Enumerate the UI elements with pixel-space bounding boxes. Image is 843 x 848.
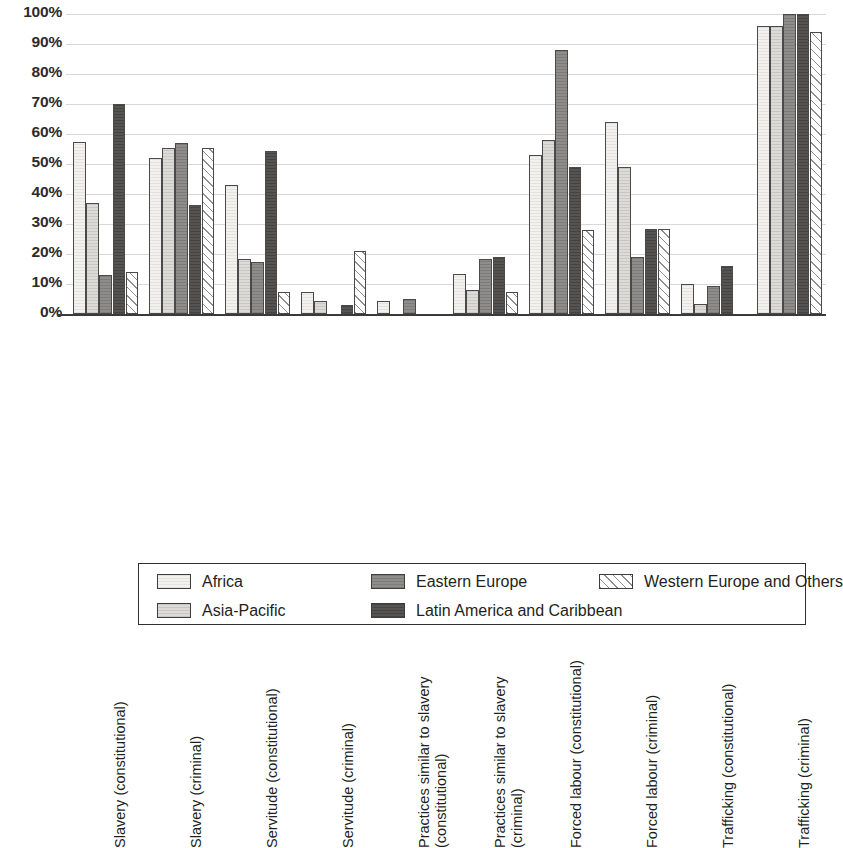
legend-item[interactable]: Western Europe and Others <box>599 566 843 597</box>
bar <box>86 203 98 314</box>
y-axis-tick-label: 70% <box>4 93 62 111</box>
y-axis-tick-label: 60% <box>4 123 62 141</box>
bar-group-bars <box>377 14 442 314</box>
y-axis-tick-label: 40% <box>4 183 62 201</box>
bar-group-bars <box>149 14 214 314</box>
y-axis-tick-label: 80% <box>4 63 62 81</box>
bar <box>658 229 670 315</box>
bar <box>278 292 290 315</box>
bar-group <box>529 14 594 314</box>
legend-swatch-icon <box>371 574 405 589</box>
bar-group-bars <box>73 14 138 314</box>
bar <box>694 304 706 315</box>
bar <box>175 143 187 314</box>
y-axis-tick-label: 20% <box>4 243 62 261</box>
bar <box>783 14 795 314</box>
chart-legend: AfricaAsia-PacificEastern EuropeLatin Am… <box>138 563 806 625</box>
bar <box>453 274 465 315</box>
bar-group <box>301 14 366 314</box>
bar-group <box>757 14 822 314</box>
bar <box>681 284 693 314</box>
y-axis-tick-label: 10% <box>4 273 62 291</box>
bar-group <box>377 14 442 314</box>
bar-group-bars <box>529 14 594 314</box>
bar-group <box>605 14 670 314</box>
bar-group-bars <box>681 14 746 314</box>
x-axis-baseline <box>57 314 826 316</box>
x-axis-category-label-text: Slavery (constitutional) <box>112 638 129 848</box>
bar <box>99 275 111 314</box>
bar <box>354 251 366 314</box>
bar-group-bars <box>605 14 670 314</box>
bar <box>113 104 125 314</box>
bar <box>377 301 390 315</box>
x-axis-category-label-text: Trafficking (constitutional) <box>720 638 737 848</box>
bar <box>238 259 250 315</box>
legend-swatch-icon <box>599 574 633 589</box>
bar <box>707 286 719 315</box>
bar <box>506 292 518 315</box>
bar <box>555 50 567 314</box>
bar <box>770 26 782 314</box>
bar <box>73 142 85 315</box>
legend-item[interactable]: Latin America and Caribbean <box>371 595 622 626</box>
bar <box>493 257 505 314</box>
bar <box>605 122 617 314</box>
legend-item[interactable]: Eastern Europe <box>371 566 527 597</box>
x-axis-category-label-text: Practices similar to slavery (criminal) <box>492 638 526 848</box>
legend-item[interactable]: Asia-Pacific <box>157 595 286 626</box>
y-axis-tick-label: 100% <box>4 3 62 21</box>
bar-group <box>225 14 290 314</box>
bar-group-bars <box>757 14 822 314</box>
bar <box>542 140 554 314</box>
legend-item-label: Western Europe and Others <box>644 573 843 591</box>
legend-item-label: Eastern Europe <box>416 573 527 591</box>
bar <box>403 299 416 314</box>
bar <box>479 259 491 315</box>
bar <box>797 14 809 314</box>
legend-swatch-icon <box>157 574 191 589</box>
x-axis-category-label-text: Slavery (criminal) <box>188 638 205 848</box>
bar <box>314 301 326 315</box>
bar <box>569 167 581 314</box>
bar <box>202 148 214 315</box>
x-axis-category-label-text: Trafficking (criminal) <box>796 638 813 848</box>
x-axis-category-label-text: Servitude (criminal) <box>340 638 357 848</box>
bar <box>529 155 541 314</box>
bar <box>582 230 594 314</box>
x-axis-category-label-text: Forced labour (criminal) <box>644 638 661 848</box>
y-axis-tick-label: 30% <box>4 213 62 231</box>
y-axis-tick-label: 0% <box>4 303 62 321</box>
bar <box>162 148 174 315</box>
bar <box>631 257 643 314</box>
x-axis-category-label-text: Practices similar to slavery (constituti… <box>416 638 450 848</box>
x-axis-category-label-text: Forced labour (constitutional) <box>568 638 585 848</box>
legend-item[interactable]: Africa <box>157 566 243 597</box>
bar-group <box>73 14 138 314</box>
bar <box>721 266 733 314</box>
bar <box>301 292 313 315</box>
bar-group <box>149 14 214 314</box>
y-axis: 100%90%80%70%60%50%40%30%20%10%0% <box>0 0 62 330</box>
bar <box>341 305 353 314</box>
bar <box>618 167 630 314</box>
legend-swatch-icon <box>371 603 405 618</box>
bar <box>757 26 769 314</box>
bar <box>810 32 822 314</box>
bar <box>265 151 277 315</box>
legend-item-label: Africa <box>202 573 243 591</box>
bar-group <box>453 14 518 314</box>
x-axis-category-label-text: Servitude (constitutional) <box>264 638 281 848</box>
bar-group-bars <box>225 14 290 314</box>
bar <box>466 290 478 314</box>
bar <box>251 262 263 315</box>
bar <box>225 185 237 314</box>
bar-group <box>681 14 746 314</box>
bar <box>149 158 161 314</box>
legend-item-label: Latin America and Caribbean <box>416 602 622 620</box>
y-axis-tick-label: 90% <box>4 33 62 51</box>
legend-swatch-icon <box>157 603 191 618</box>
bar <box>645 229 657 315</box>
y-axis-tick-label: 50% <box>4 153 62 171</box>
